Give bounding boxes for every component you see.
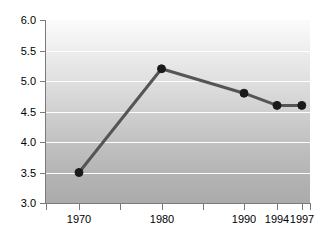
series-markers — [75, 65, 306, 177]
data-series — [0, 0, 325, 244]
data-point — [75, 169, 83, 177]
series-line — [79, 69, 302, 173]
data-point — [240, 89, 248, 97]
data-point — [298, 101, 306, 109]
line-chart: 3.03.54.04.55.05.56.0 197019801990199419… — [0, 0, 325, 244]
data-point — [273, 101, 281, 109]
data-point — [158, 65, 166, 73]
